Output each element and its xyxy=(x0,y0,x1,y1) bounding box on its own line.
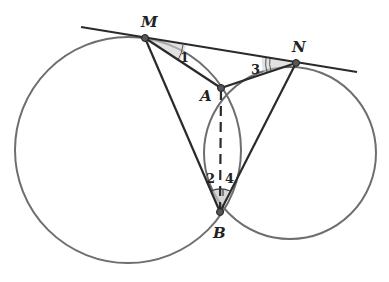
angle-label-4: 4 xyxy=(225,171,234,186)
angle-label-2: 2 xyxy=(206,171,215,186)
label-A: A xyxy=(198,87,212,105)
left-circle xyxy=(15,37,241,263)
geometry-diagram: M N A B 1 2 3 4 xyxy=(0,0,389,282)
diagram-canvas: M N A B 1 2 3 4 xyxy=(0,0,389,282)
right-circle xyxy=(204,67,376,239)
point-M xyxy=(142,35,149,42)
tangent-line-MN xyxy=(81,27,357,72)
segment-AB-dashed xyxy=(220,90,221,210)
point-B xyxy=(217,209,224,216)
angle-label-1: 1 xyxy=(180,50,189,65)
point-N xyxy=(293,60,300,67)
label-B: B xyxy=(212,224,226,242)
point-A xyxy=(218,85,225,92)
label-M: M xyxy=(140,13,158,31)
angle-label-3: 3 xyxy=(251,62,260,77)
label-N: N xyxy=(291,38,307,56)
